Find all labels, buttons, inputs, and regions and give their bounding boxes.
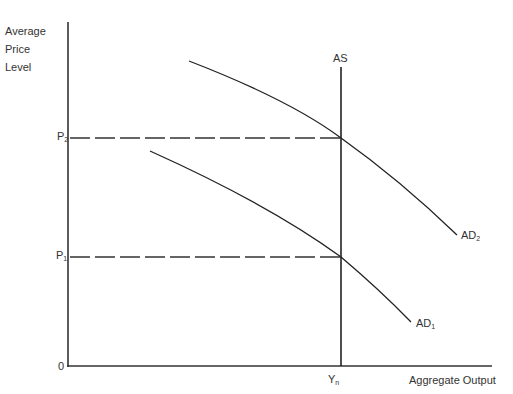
yn-tick-label: Yn: [328, 373, 339, 389]
y-axis-label-line-1: Average: [5, 22, 46, 40]
origin-label: 0: [58, 360, 64, 372]
p2-tick-label: P2: [57, 130, 68, 146]
chart-canvas: [0, 0, 513, 394]
y-axis-label-line-2: Price: [5, 40, 46, 58]
x-axis-label: Aggregate Output: [409, 374, 496, 386]
as-label: AS: [333, 52, 348, 64]
ad1-curve: [150, 151, 411, 322]
ad1-label: AD1: [416, 317, 435, 333]
y-axis-label: Average Price Level: [5, 22, 46, 76]
y-axis-label-line-3: Level: [5, 58, 46, 76]
p1-tick-label: P1: [56, 249, 67, 265]
ad2-label: AD2: [461, 229, 480, 245]
ad2-curve: [189, 61, 457, 235]
